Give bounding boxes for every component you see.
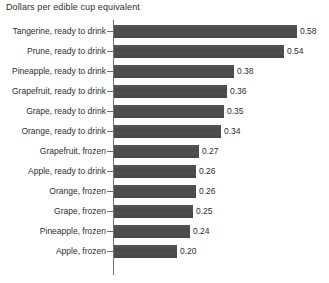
axis-tick [107, 111, 113, 112]
bar [114, 45, 284, 58]
category-label: Grape, ready to drink [26, 105, 106, 118]
axis-tick [107, 51, 113, 52]
bar [114, 65, 234, 78]
bar-row: Tangerine, ready to drink0.58 [0, 22, 329, 42]
category-label: Tangerine, ready to drink [12, 25, 106, 38]
bar [114, 105, 224, 118]
category-label: Orange, frozen [49, 185, 106, 198]
axis-tick [107, 31, 113, 32]
bar-row: Pineapple, ready to drink0.38 [0, 62, 329, 82]
bar [114, 85, 227, 98]
bar-value-label: 0.25 [196, 205, 213, 218]
plot-area: Tangerine, ready to drink0.58Prune, read… [0, 20, 329, 282]
bar-value-label: 0.35 [227, 105, 244, 118]
bar-value-label: 0.54 [287, 45, 304, 58]
bar-row: Grapefruit, ready to drink0.36 [0, 82, 329, 102]
bar-value-label: 0.26 [199, 185, 216, 198]
bar [114, 225, 190, 238]
bar-value-label: 0.36 [230, 85, 247, 98]
bar-value-label: 0.34 [224, 125, 241, 138]
axis-tick [107, 231, 113, 232]
bar [114, 205, 193, 218]
category-label: Pineapple, frozen [40, 225, 106, 238]
category-label: Orange, ready to drink [21, 125, 106, 138]
category-label: Grape, frozen [54, 205, 106, 218]
category-label: Grapefruit, ready to drink [12, 85, 106, 98]
axis-tick [107, 211, 113, 212]
axis-tick [107, 171, 113, 172]
axis-tick [107, 191, 113, 192]
chart-title: Dollars per edible cup equivalent [6, 2, 140, 13]
category-label: Apple, frozen [56, 245, 106, 258]
bar-chart: Dollars per edible cup equivalent Tanger… [0, 0, 329, 283]
bar [114, 125, 221, 138]
category-label: Prune, ready to drink [27, 45, 106, 58]
bar-value-label: 0.26 [199, 165, 216, 178]
bar-row: Orange, frozen0.26 [0, 182, 329, 202]
axis-tick [107, 251, 113, 252]
bar-value-label: 0.58 [300, 25, 317, 38]
bar-row: Grape, frozen0.25 [0, 202, 329, 222]
bar [114, 145, 199, 158]
bar [114, 185, 196, 198]
category-label: Apple, ready to drink [28, 165, 106, 178]
bar [114, 245, 177, 258]
bar [114, 165, 196, 178]
axis-tick [107, 91, 113, 92]
bar-value-label: 0.38 [237, 65, 254, 78]
bar-row: Grapefruit, frozen0.27 [0, 142, 329, 162]
bar-value-label: 0.20 [180, 245, 197, 258]
bar-row: Apple, ready to drink0.26 [0, 162, 329, 182]
axis-tick [107, 71, 113, 72]
category-label: Grapefruit, frozen [40, 145, 106, 158]
axis-tick [107, 151, 113, 152]
bar-row: Apple, frozen0.20 [0, 242, 329, 262]
bar-row: Orange, ready to drink0.34 [0, 122, 329, 142]
bar-value-label: 0.24 [193, 225, 210, 238]
bar-value-label: 0.27 [202, 145, 219, 158]
category-label: Pineapple, ready to drink [12, 65, 106, 78]
bar-row: Prune, ready to drink0.54 [0, 42, 329, 62]
bar [114, 25, 297, 38]
bar-row: Pineapple, frozen0.24 [0, 222, 329, 242]
axis-tick [107, 131, 113, 132]
bar-row: Grape, ready to drink0.35 [0, 102, 329, 122]
